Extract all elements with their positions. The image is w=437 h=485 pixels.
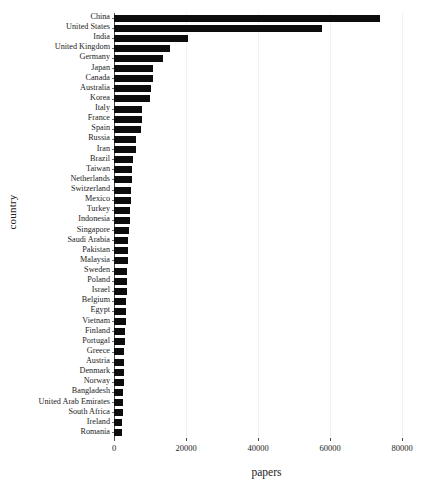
bar-row: Portugal (114, 337, 420, 347)
bar-switzerland (114, 187, 131, 194)
y-tick-label-austria: Austria (86, 356, 110, 366)
bar-row: Spain (114, 124, 420, 134)
bar-italy (114, 106, 142, 113)
y-tick-label-netherlands: Netherlands (70, 174, 110, 184)
bar-japan (114, 65, 153, 72)
y-tick-label-singapore: Singapore (77, 225, 110, 235)
bar-turkey (114, 207, 130, 214)
y-tick-label-united-arab-emirates: United Arab Emirates (39, 397, 110, 407)
bar-united-kingdom (114, 45, 170, 52)
y-tick-label-pakistan: Pakistan (82, 245, 110, 255)
bar-india (114, 35, 188, 42)
y-tick-label-egypt: Egypt (90, 305, 110, 315)
bar-row: Taiwan (114, 165, 420, 175)
bar-row: United States (114, 23, 420, 33)
bar-singapore (114, 227, 129, 234)
bar-bangladesh (114, 389, 123, 396)
bar-row: Denmark (114, 367, 420, 377)
bar-israel (114, 288, 127, 295)
bar-korea (114, 95, 150, 102)
bar-france (114, 116, 142, 123)
y-tick-label-india: India (93, 32, 110, 42)
y-tick-label-israel: Israel (92, 285, 110, 295)
bar-belgium (114, 298, 126, 305)
bar-russia (114, 136, 136, 143)
y-tick-label-ireland: Ireland (87, 417, 110, 427)
bar-row: Ireland (114, 418, 420, 428)
bar-portugal (114, 338, 125, 345)
bar-united-states (114, 25, 322, 32)
bar-row: Mexico (114, 195, 420, 205)
bar-sweden (114, 268, 127, 275)
bar-row: Romania (114, 428, 420, 438)
bar-pakistan (114, 247, 128, 254)
x-tick-mark-20000 (186, 438, 187, 441)
bar-taiwan (114, 166, 132, 173)
y-tick-label-germany: Germany (80, 52, 110, 62)
y-tick-label-norway: Norway (84, 376, 110, 386)
x-axis-title: papers (114, 466, 419, 478)
x-tick-label-60000: 60000 (300, 443, 360, 453)
bar-norway (114, 379, 124, 386)
bar-row: Norway (114, 377, 420, 387)
bar-chart-figure: country ChinaUnited StatesIndiaUnited Ki… (0, 0, 437, 485)
bar-saudi-arabia (114, 237, 128, 244)
bar-mexico (114, 197, 131, 204)
bar-row: Bangladesh (114, 387, 420, 397)
y-tick-label-italy: Italy (95, 103, 110, 113)
bar-iran (114, 146, 136, 153)
bar-spain (114, 126, 141, 133)
y-tick-label-switzerland: Switzerland (71, 184, 110, 194)
y-tick-label-poland: Poland (87, 275, 110, 285)
bar-australia (114, 85, 151, 92)
bar-row: India (114, 33, 420, 43)
bar-row: Italy (114, 104, 420, 114)
x-tick-label-0: 0 (84, 443, 144, 453)
y-tick-label-united-states: United States (66, 22, 110, 32)
bar-brazil (114, 156, 133, 163)
y-axis-title: country (6, 172, 18, 252)
bar-south-africa (114, 409, 123, 416)
bar-row: Austria (114, 357, 420, 367)
x-tick-label-20000: 20000 (156, 443, 216, 453)
y-tick-label-australia: Australia (80, 83, 110, 93)
y-tick-label-romania: Romania (80, 427, 110, 437)
bar-row: Pakistan (114, 246, 420, 256)
bar-row: Netherlands (114, 175, 420, 185)
x-tick-mark-0 (114, 438, 115, 441)
y-tick-label-portugal: Portugal (82, 336, 110, 346)
y-tick-label-indonesia: Indonesia (78, 214, 110, 224)
x-tick-label-40000: 40000 (228, 443, 288, 453)
x-tick-label-80000: 80000 (372, 443, 432, 453)
bar-germany (114, 55, 163, 62)
bar-row: Israel (114, 286, 420, 296)
bar-poland (114, 278, 127, 285)
y-tick-label-iran: Iran (97, 144, 110, 154)
bar-row: Japan (114, 64, 420, 74)
bar-row: South Africa (114, 408, 420, 418)
bar-row: Sweden (114, 266, 420, 276)
plot-area: ChinaUnited StatesIndiaUnited KingdomGer… (114, 13, 420, 438)
bar-row: Switzerland (114, 185, 420, 195)
y-tick-label-russia: Russia (88, 133, 110, 143)
y-axis-title-container: country (0, 0, 26, 485)
y-tick-label-south-africa: South Africa (68, 407, 110, 417)
y-tick-label-taiwan: Taiwan (86, 164, 110, 174)
bar-malaysia (114, 257, 128, 264)
bar-ireland (114, 419, 122, 426)
bar-row: Germany (114, 53, 420, 63)
y-tick-label-united-kingdom: United Kingdom (55, 42, 110, 52)
bar-row: Turkey (114, 205, 420, 215)
bar-row: United Kingdom (114, 43, 420, 53)
bar-row: Greece (114, 347, 420, 357)
bar-netherlands (114, 176, 132, 183)
y-tick-label-vietnam: Vietnam (82, 316, 110, 326)
bar-canada (114, 75, 153, 82)
bar-row: Indonesia (114, 215, 420, 225)
bar-denmark (114, 369, 124, 376)
bar-row: Saudi Arabia (114, 236, 420, 246)
bar-row: Iran (114, 145, 420, 155)
y-tick-label-turkey: Turkey (87, 204, 110, 214)
bar-row: Brazil (114, 155, 420, 165)
bar-row: Malaysia (114, 256, 420, 266)
